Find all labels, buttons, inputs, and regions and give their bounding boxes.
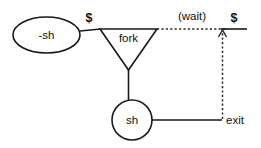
- exit-label: exit: [226, 114, 245, 126]
- wait-label: (wait): [178, 10, 206, 22]
- prompt-symbol-right: $: [231, 11, 238, 25]
- process-flow-diagram: -sh fork sh $ (wait) $ exit: [0, 0, 261, 148]
- node-login-shell-label: -sh: [39, 29, 55, 41]
- edge-login-shell-to-fork: [80, 29, 101, 31]
- edge-layer: [80, 29, 247, 120]
- node-fork-label: fork: [119, 32, 138, 44]
- prompt-symbol-left: $: [86, 11, 93, 25]
- annotation-layer: $ (wait) $ exit: [86, 10, 245, 126]
- node-child-shell-label: sh: [126, 114, 138, 126]
- diagram-canvas: -sh fork sh $ (wait) $ exit: [0, 0, 261, 148]
